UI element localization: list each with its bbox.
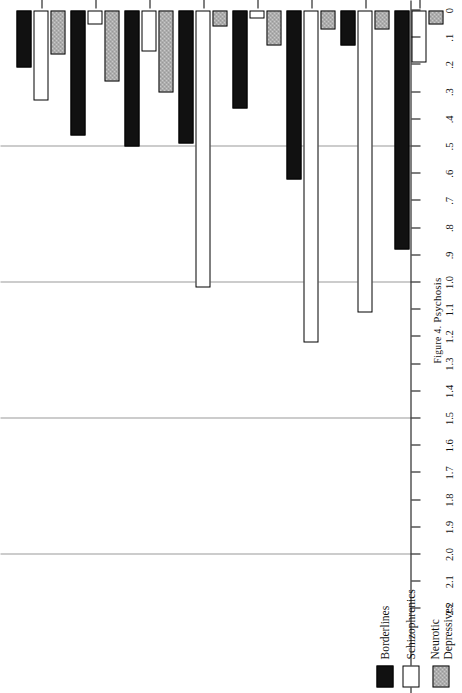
bar-borderlines-cat4 [232,10,247,108]
category-leader-6 [365,0,366,8]
axis-tick-_6 [411,172,420,173]
axis-tick-1_1 [411,308,420,309]
category-leader-2 [149,0,150,8]
axis-tick-1_4 [411,390,420,391]
bar-borderlines-cat6 [340,10,355,45]
bar-neurotic-depressives-cat5 [320,10,335,29]
bar-borderlines-cat0 [16,10,31,67]
bar-borderlines-cat2 [124,10,139,146]
category-leader-1 [95,0,96,8]
bar-neurotic-depressives-cat2 [158,10,173,92]
axis-tick-label-_9: .9 [443,240,454,270]
axis-tick-label-_7: .7 [443,185,454,215]
bar-schizophrenics-cat4 [249,10,264,18]
bar-schizophrenics-cat3 [195,10,210,287]
axis-tick-0 [411,9,420,10]
legend-swatch-neurotic-depressives [432,665,449,687]
axis-tick-1_2 [411,335,420,336]
figure-caption: Figure 4. Psychosis [430,277,442,363]
axis-tick-label-_1: .1 [443,22,454,52]
axis-tick-label-1_5: 1.5 [443,403,454,433]
axis-tick-label-_3: .3 [443,77,454,107]
bar-borderlines-cat3 [178,10,193,143]
bar-schizophrenics-cat0 [33,10,48,100]
axis-tick-_8 [411,227,420,228]
axis-tick-label-1_3: 1.3 [443,349,454,379]
axis-tick-_7 [411,199,420,200]
bar-schizophrenics-cat2 [141,10,156,51]
category-leader-0 [41,0,42,8]
bar-neurotic-depressives-cat1 [104,10,119,81]
axis-tick-label-1_4: 1.4 [443,376,454,406]
axis-tick-label-_5: .5 [443,131,454,161]
bar-neurotic-depressives-cat0 [50,10,65,54]
bar-borderlines-cat1 [70,10,85,135]
legend-item-neurotic-depressives: Neurotic Depressives [428,603,454,687]
axis-tick-1_5 [411,417,420,418]
axis-tick-1_7 [411,471,420,472]
figure-caption-prefix: Figure 4. [432,325,442,363]
figure-root: 2.22.12.01.91.81.71.61.51.41.31.21.11.0.… [0,0,462,693]
legend-item-borderlines: Borderlines [376,605,393,687]
axis-tick-_4 [411,118,420,119]
axis-tick-1_0 [411,281,420,282]
legend-item-schizophrenics: Schizophrenics [402,589,419,687]
bar-schizophrenics-cat1 [87,10,102,24]
bar-neurotic-depressives-cat7 [428,10,443,24]
legend: Borderlines Schizophrenics Neurotic Depr… [372,493,462,693]
axis-tick-label-1_0: 1.0 [443,267,454,297]
axis-tick-label-_8: .8 [443,213,454,243]
axis-tick-label-_4: .4 [443,104,454,134]
bar-schizophrenics-cat6 [357,10,372,312]
axis-tick-1_6 [411,444,420,445]
legend-label-schizophrenics: Schizophrenics [404,589,417,659]
axis-tick-label-1_7: 1.7 [443,457,454,487]
legend-swatch-borderlines [376,665,393,687]
legend-swatch-schizophrenics [402,665,419,687]
bar-neurotic-depressives-cat4 [266,10,281,45]
category-leader-7 [419,0,420,8]
figure-caption-text: Psychosis [430,277,442,322]
bar-borderlines-cat5 [286,10,301,179]
bar-schizophrenics-cat5 [303,10,318,342]
bar-neurotic-depressives-cat6 [374,10,389,29]
axis-tick-label-_2: .2 [443,49,454,79]
category-leader-4 [257,0,258,8]
axis-tick-_9 [411,254,420,255]
gridline-2 [0,553,411,554]
rotated-canvas: 2.22.12.01.91.81.71.61.51.41.31.21.11.0.… [0,0,462,693]
axis-tick-_3 [411,91,420,92]
legend-label-borderlines: Borderlines [378,605,391,659]
gridline-1_5 [0,417,411,418]
axis-tick-label-1_1: 1.1 [443,294,454,324]
axis-tick-_2 [411,63,420,64]
legend-label-neurotic-depressives: Neurotic Depressives [428,603,454,659]
axis-tick-_1 [411,36,420,37]
category-leader-5 [311,0,312,8]
axis-tick-1_3 [411,363,420,364]
axis-tick-label-_6: .6 [443,158,454,188]
axis-tick-label-1_2: 1.2 [443,321,454,351]
category-leader-3 [203,0,204,8]
axis-tick-label-0: 0 [443,0,454,25]
bar-neurotic-depressives-cat3 [212,10,227,26]
axis-tick-_5 [411,145,420,146]
axis-tick-label-1_6: 1.6 [443,430,454,460]
bar-borderlines-cat7 [394,10,409,249]
